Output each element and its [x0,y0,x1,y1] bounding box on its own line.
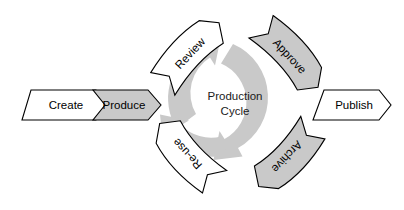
publish-label: Publish [335,99,373,111]
stage-publish[interactable]: Publish [313,90,391,120]
stage-produce[interactable]: Produce [93,90,161,120]
center-label-line1: Production [208,90,263,102]
production-cycle-diagram: Production Cycle Create Produce Review A… [0,0,404,210]
create-label: Create [49,99,84,111]
stage-create[interactable]: Create [22,90,108,120]
center-label-line2: Cycle [221,105,250,117]
diagram-canvas: Production Cycle Create Produce Review A… [0,0,404,210]
produce-label: Produce [103,99,146,111]
